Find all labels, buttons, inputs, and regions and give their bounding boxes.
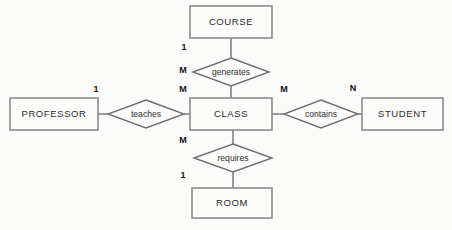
entity-course[interactable]: COURSE	[190, 6, 272, 38]
entity-class[interactable]: CLASS	[190, 98, 272, 130]
cardinality-label-student-side: N	[350, 83, 357, 93]
er-diagram: COURSEPROFESSORCLASSSTUDENTROOM generate…	[0, 0, 452, 230]
cardinality-label-class-left: M	[179, 84, 187, 94]
er-diagram-canvas: COURSEPROFESSORCLASSSTUDENTROOM generate…	[0, 0, 452, 230]
relationship-label-teaches: teaches	[131, 109, 161, 119]
relationship-label-generates: generates	[212, 67, 250, 77]
relationship-contains[interactable]: contains	[284, 100, 358, 128]
entity-label-class: CLASS	[214, 108, 248, 119]
relationship-label-contains: contains	[305, 109, 337, 119]
entity-label-course: COURSE	[209, 16, 253, 27]
entity-label-room: ROOM	[216, 197, 248, 208]
entity-professor[interactable]: PROFESSOR	[10, 98, 98, 130]
cardinality-label-class-top: M	[179, 65, 187, 75]
cardinality-label-room-side: 1	[180, 170, 185, 180]
relationship-generates[interactable]: generates	[193, 58, 269, 86]
entity-label-student: STUDENT	[378, 108, 427, 119]
entity-student[interactable]: STUDENT	[362, 98, 443, 130]
relationship-label-requires: requires	[217, 153, 248, 163]
cardinality-label-professor-side: 1	[93, 84, 98, 94]
cardinality-label-class-right: M	[280, 84, 288, 94]
cardinality-label-class-bottom: M	[179, 135, 187, 145]
entities-group: COURSEPROFESSORCLASSSTUDENTROOM	[10, 6, 443, 218]
relationship-requires[interactable]: requires	[194, 144, 272, 172]
cardinality-label-course-side: 1	[181, 42, 186, 52]
entity-room[interactable]: ROOM	[192, 188, 272, 218]
entity-label-professor: PROFESSOR	[21, 108, 86, 119]
relationship-teaches[interactable]: teaches	[108, 100, 184, 128]
